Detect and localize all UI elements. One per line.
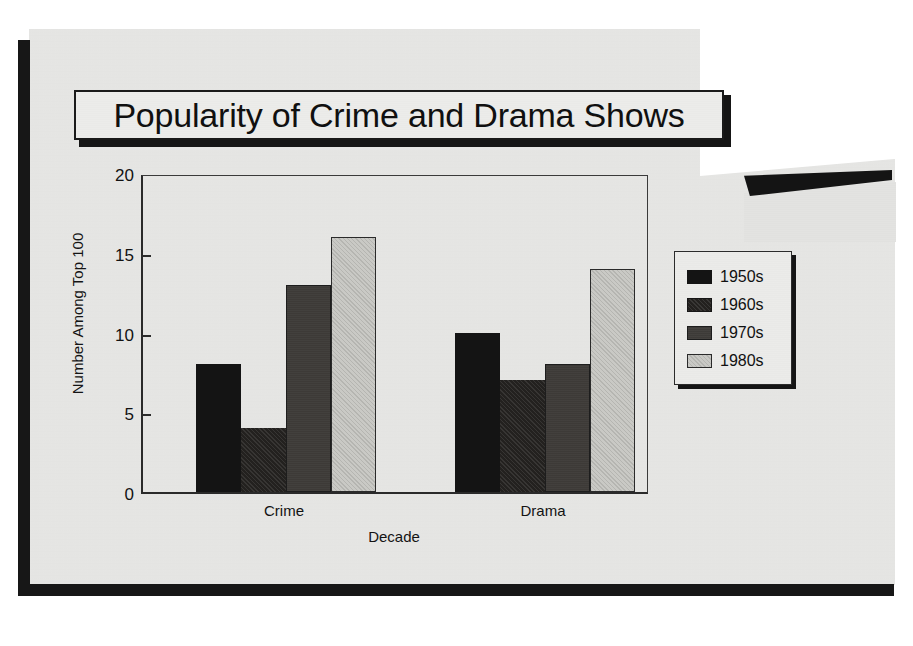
legend-item: 1950s [687, 263, 791, 291]
bar [545, 364, 590, 492]
x-category-label: Crime [264, 502, 304, 519]
y-tick-label: 5 [125, 405, 134, 425]
bars-layer [143, 176, 647, 492]
bar-chart: Number Among Top 100 05101520 CrimeDrama… [29, 150, 895, 570]
legend-item: 1980s [687, 347, 791, 375]
y-axis-title: Number Among Top 100 [69, 204, 86, 424]
y-tick-label: 20 [115, 166, 134, 186]
legend-label: 1980s [720, 352, 764, 370]
legend-item: 1970s [687, 319, 791, 347]
legend-item: 1960s [687, 291, 791, 319]
x-category-label: Drama [520, 502, 565, 519]
title-box: Popularity of Crime and Drama Shows [74, 90, 724, 140]
legend: 1950s1960s1970s1980s [674, 251, 792, 385]
scanned-page: Popularity of Crime and Drama Shows Numb… [0, 0, 913, 646]
bar [500, 380, 545, 492]
bar [455, 333, 500, 493]
bar [241, 428, 286, 492]
legend-label: 1970s [720, 324, 764, 342]
legend-swatch-icon [687, 298, 712, 312]
x-axis-title: Decade [368, 528, 420, 545]
legend-label: 1960s [720, 296, 764, 314]
slide-bottom-edge [18, 584, 894, 596]
bar [590, 269, 635, 492]
legend-swatch-icon [687, 354, 712, 368]
y-tick-label: 0 [125, 485, 134, 505]
y-tick-label: 10 [115, 326, 134, 346]
legend-swatch-icon [687, 270, 712, 284]
legend-swatch-icon [687, 326, 712, 340]
plot-area: 05101520 [141, 175, 648, 494]
bar [331, 237, 376, 492]
bar [286, 285, 331, 492]
legend-label: 1950s [720, 268, 764, 286]
y-tick-label: 15 [115, 246, 134, 266]
bar [196, 364, 241, 492]
page-title: Popularity of Crime and Drama Shows [113, 96, 684, 135]
